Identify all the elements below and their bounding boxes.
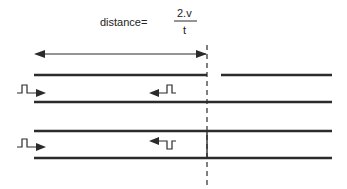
arrow-right-icon xyxy=(36,143,46,151)
distance-arrow xyxy=(34,50,207,58)
arrowhead-right-icon xyxy=(196,50,207,58)
arrowhead-left-icon xyxy=(34,50,45,58)
faulted-cable xyxy=(17,75,332,102)
pulse-icon xyxy=(17,85,38,93)
tdr-diagram: distance= 2.v t xyxy=(0,0,347,189)
incident-pulse-2 xyxy=(17,139,46,151)
incident-pulse-1 xyxy=(17,85,46,97)
arrow-left-icon xyxy=(149,89,159,97)
shorted-cable xyxy=(17,131,332,158)
arrow-right-icon xyxy=(36,89,46,97)
formula-denominator: t xyxy=(183,24,186,36)
arrow-left-icon xyxy=(149,137,159,145)
reflected-pulse-2 xyxy=(149,137,176,149)
reflected-pulse-1 xyxy=(149,85,176,97)
formula-numerator: 2.v xyxy=(177,7,192,19)
formula-label: distance= xyxy=(100,16,147,28)
pulse-icon xyxy=(17,139,38,147)
